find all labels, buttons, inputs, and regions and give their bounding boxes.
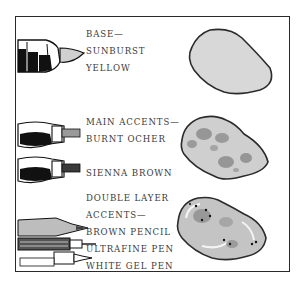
double-layer-label: DOUBLE LAYER ACCENTS— BROWN PENCIL ULTRA… [86,190,174,275]
main-accents-label: MAIN ACCENTS— BURNT OCHER SIENNA BROWN [86,114,180,182]
label-line: BASE— [86,26,146,43]
gel-pen-icon [16,250,96,266]
label-line: MAIN ACCENTS— [86,114,180,131]
pencil-icon [16,216,88,238]
label-line: SUNBURST [86,43,146,60]
label-line: WHITE GEL PEN [86,258,174,275]
double-layer-swatch [172,192,272,267]
label-line: DOUBLE LAYER [86,190,174,207]
base-label: BASE— SUNBURST YELLOW [86,26,146,77]
label-line: ULTRAFINE PEN [86,241,174,258]
base-swatch [180,24,280,99]
marker-icon [16,120,84,150]
label-line: YELLOW [86,60,146,77]
marker-icon [16,36,86,76]
label-line: SIENNA BROWN [86,165,180,182]
label-line: ACCENTS— [86,207,174,224]
label-line: BROWN PENCIL [86,224,174,241]
label-line [86,148,180,165]
label-line: BURNT OCHER [86,131,180,148]
main-accents-swatch [174,110,274,185]
marker-icon [16,155,84,185]
